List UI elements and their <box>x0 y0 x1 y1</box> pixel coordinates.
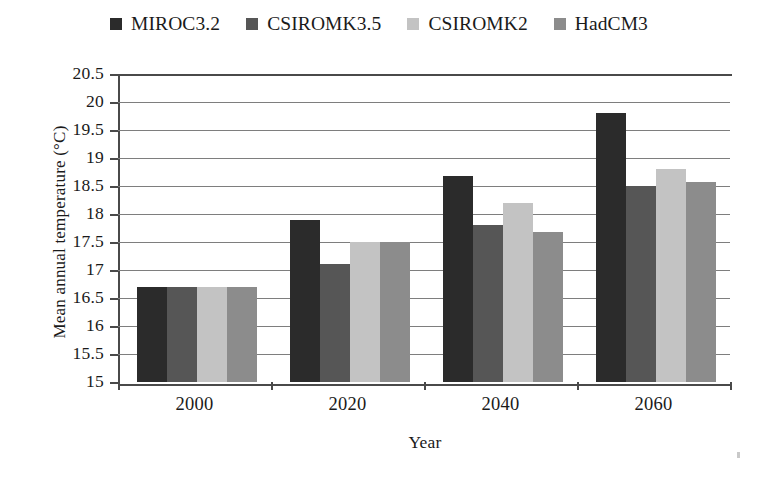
x-tick-label-2020: 2020 <box>288 394 408 415</box>
x-tick-mark <box>424 382 426 390</box>
bar-hadcm3-2060 <box>686 182 716 382</box>
y-tick-label: 17 <box>38 261 104 279</box>
legend-item-hadcm3: HadCM3 <box>554 14 648 33</box>
y-tick-label: 15.5 <box>38 345 104 363</box>
legend-swatch-csiromk2 <box>407 18 419 30</box>
y-tick-mark <box>110 130 118 132</box>
bar-miroc32-2040 <box>443 176 473 382</box>
y-tick-mark <box>110 270 118 272</box>
legend-item-csiromk35: CSIROMK3.5 <box>246 14 381 33</box>
bar-chart-figure: MIROC3.2 CSIROMK3.5 CSIROMK2 HadCM3 Mean… <box>0 0 758 482</box>
legend-label-miroc32: MIROC3.2 <box>131 14 220 33</box>
y-tick-label: 20 <box>38 93 104 111</box>
bar-csiromk35-2000 <box>167 287 197 382</box>
y-tick-mark <box>110 214 118 216</box>
x-axis-title: Year <box>118 432 732 453</box>
legend-label-csiromk35: CSIROMK3.5 <box>267 14 381 33</box>
y-tick-label: 18 <box>38 205 104 223</box>
y-tick-mark <box>110 298 118 300</box>
bar-csiromk2-2060 <box>656 169 686 382</box>
y-tick-label: 19 <box>38 149 104 167</box>
y-tick-label: 16.5 <box>38 289 104 307</box>
legend-label-hadcm3: HadCM3 <box>575 14 648 33</box>
legend-swatch-csiromk35 <box>246 18 258 30</box>
bar-csiromk35-2040 <box>473 225 503 382</box>
bar-csiromk35-2060 <box>626 186 656 382</box>
bar-csiromk2-2040 <box>503 203 533 382</box>
y-tick-label: 17.5 <box>38 233 104 251</box>
bar-miroc32-2020 <box>290 220 320 382</box>
bars-layer <box>118 74 730 382</box>
bar-csiromk2-2020 <box>350 242 380 382</box>
y-tick-mark <box>110 186 118 188</box>
bar-hadcm3-2020 <box>380 242 410 382</box>
scan-artifact <box>737 452 740 458</box>
y-tick-mark <box>110 74 118 76</box>
x-tick-mark <box>730 382 732 390</box>
y-tick-mark <box>110 382 118 384</box>
x-tick-mark <box>271 382 273 390</box>
y-tick-label: 19.5 <box>38 121 104 139</box>
legend-item-miroc32: MIROC3.2 <box>110 14 220 33</box>
bar-miroc32-2000 <box>137 287 167 382</box>
legend-swatch-hadcm3 <box>554 18 566 30</box>
y-tick-label: 16 <box>38 317 104 335</box>
y-tick-label: 15 <box>38 373 104 391</box>
bar-hadcm3-2040 <box>533 232 563 382</box>
bar-miroc32-2060 <box>596 113 626 382</box>
y-tick-mark <box>110 326 118 328</box>
legend-swatch-miroc32 <box>110 18 122 30</box>
x-tick-mark <box>577 382 579 390</box>
x-tick-label-2040: 2040 <box>441 394 561 415</box>
y-tick-mark <box>110 102 118 104</box>
y-tick-label: 18.5 <box>38 177 104 195</box>
bar-hadcm3-2000 <box>227 287 257 382</box>
legend-label-csiromk2: CSIROMK2 <box>428 14 527 33</box>
x-tick-mark <box>118 382 120 390</box>
legend-item-csiromk2: CSIROMK2 <box>407 14 527 33</box>
y-tick-mark <box>110 158 118 160</box>
x-tick-label-2060: 2060 <box>594 394 714 415</box>
y-tick-mark <box>110 242 118 244</box>
y-tick-mark <box>110 354 118 356</box>
bar-csiromk35-2020 <box>320 264 350 382</box>
chart-legend: MIROC3.2 CSIROMK3.5 CSIROMK2 HadCM3 <box>0 14 758 33</box>
bar-csiromk2-2000 <box>197 287 227 382</box>
y-tick-label: 20.5 <box>38 65 104 83</box>
x-tick-label-2000: 2000 <box>135 394 255 415</box>
